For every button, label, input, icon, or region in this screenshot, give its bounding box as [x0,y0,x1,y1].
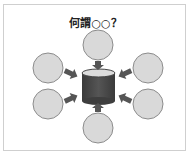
arrow-up-right-icon [62,90,79,106]
arrow-up-left-icon [116,90,133,106]
satellite-circle-lower-left [33,89,63,119]
database-cylinder-icon [82,69,115,105]
satellite-circle-top [83,30,113,60]
hub-diagram [0,0,191,157]
satellite-circle-bottom [83,113,113,143]
arrow-down-right-icon [62,66,79,82]
satellite-circle-upper-left [33,53,63,83]
satellite-circle-lower-right [133,89,163,119]
arrow-down-left-icon [116,66,133,82]
satellite-circle-upper-right [133,53,163,83]
